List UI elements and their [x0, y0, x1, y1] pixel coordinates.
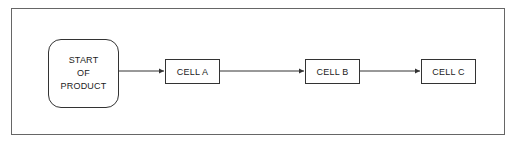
cell-b-node: CELL B — [305, 59, 360, 84]
cell-a-label: CELL A — [177, 67, 208, 77]
start-line-1: START — [69, 54, 99, 67]
cell-c-node: CELL C — [421, 59, 476, 84]
start-line-3: PRODUCT — [61, 80, 107, 93]
start-line-2: OF — [77, 67, 90, 80]
cell-c-label: CELL C — [432, 67, 464, 77]
cell-b-label: CELL B — [317, 67, 349, 77]
cell-a-node: CELL A — [165, 59, 220, 84]
start-of-product-node: START OF PRODUCT — [48, 39, 119, 108]
